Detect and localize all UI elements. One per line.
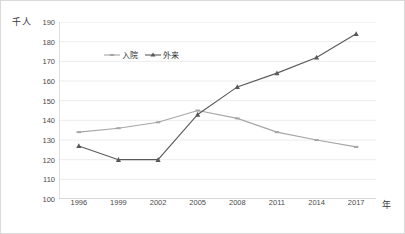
legend-triangle-icon [145,51,161,61]
legend-label: 入院 [122,52,138,60]
y-tick-label: 140 [27,116,55,125]
plot-area [59,22,376,199]
data-point-marker [354,31,359,36]
chart-container: 千人 年 190180170160150140130120110100 1996… [0,0,405,234]
y-tick-label: 170 [27,57,55,66]
y-tick-label: 120 [27,155,55,164]
data-point-marker [156,121,160,123]
x-tick-label: 1999 [110,198,127,207]
y-tick-label: 190 [27,18,55,27]
data-point-marker [195,110,199,112]
data-point-marker [235,117,239,119]
legend-item-0[interactable]: 入院 [104,51,138,61]
x-tick-label: 2002 [150,198,167,207]
line-chart-svg [59,22,376,199]
x-axis-unit-label: 年 [382,198,392,211]
chart-legend: 入院外来 [104,51,179,61]
x-tick-label: 2008 [229,198,246,207]
y-tick-label: 160 [27,77,55,86]
x-tick-label: 2011 [269,198,285,207]
y-tick-label: 150 [27,96,55,105]
data-point-marker [354,146,358,148]
data-point-marker [314,55,319,60]
x-tick-label: 2017 [348,198,365,207]
legend-dash-icon [104,51,120,61]
gridlines [59,22,376,199]
data-point-marker [76,143,81,148]
data-point-marker [275,131,279,133]
y-tick-label: 130 [27,136,55,145]
x-tick-label: 2005 [189,198,206,207]
data-point-marker [314,139,318,141]
data-point-marker [77,131,81,133]
legend-item-1[interactable]: 外来 [145,51,179,61]
x-tick-label: 2014 [308,198,325,207]
y-tick-label: 180 [27,37,55,46]
axis-lines [59,22,376,199]
data-point-marker [116,127,120,129]
x-tick-label: 1996 [70,198,87,207]
legend-label: 外来 [163,52,179,60]
y-tick-label: 100 [27,195,55,204]
y-tick-label: 110 [27,175,55,184]
